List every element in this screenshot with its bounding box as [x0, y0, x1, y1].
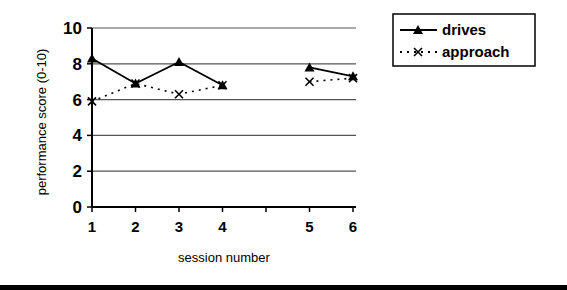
- x-tick-label: 2: [131, 218, 139, 235]
- x-tick-label: 5: [305, 218, 313, 235]
- y-tick-label: 10: [63, 19, 82, 38]
- series-drives: [87, 53, 358, 89]
- x-tick-label: 4: [218, 218, 227, 235]
- x-axis-label: session number: [178, 250, 270, 265]
- legend: drivesapproach: [393, 14, 535, 66]
- line-chart: 0246810123456session numberperformance s…: [0, 0, 567, 290]
- legend-item-drives: drives: [442, 21, 486, 38]
- y-tick-label: 2: [73, 162, 82, 181]
- y-tick-label: 8: [73, 55, 82, 74]
- bottom-border-bar: [0, 285, 567, 290]
- legend-item-approach: approach: [442, 43, 510, 60]
- gridlines: [92, 28, 356, 171]
- x-tick-label: 6: [349, 218, 357, 235]
- y-tick-label: 0: [73, 198, 82, 217]
- x-tick-label: 3: [175, 218, 183, 235]
- y-tick-label: 6: [73, 91, 82, 110]
- x-tick-label: 1: [88, 218, 96, 235]
- y-tick-label: 4: [73, 126, 83, 145]
- y-axis-label: performance score (0-10): [34, 49, 49, 196]
